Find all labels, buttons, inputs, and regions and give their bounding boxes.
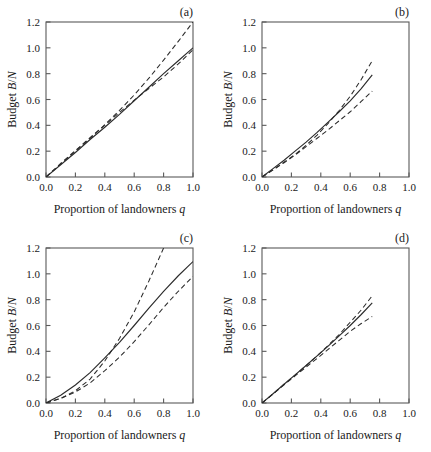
axes-frame — [262, 22, 409, 177]
y-tick-label: 1.0 — [242, 268, 256, 280]
x-axis-title: Proportion of landowners q — [54, 428, 186, 442]
x-tick-label: 0.6 — [127, 181, 141, 193]
figure-panel-grid: 0.00.20.40.60.81.00.00.20.40.60.81.01.2(… — [0, 0, 431, 452]
panel-b: 0.00.20.40.60.81.00.00.20.40.60.81.01.2(… — [216, 0, 431, 226]
curve-solid-middle — [262, 303, 372, 403]
x-tick-labels: 0.00.20.40.60.81.0 — [255, 407, 416, 419]
y-tick-label: 0.8 — [242, 68, 256, 80]
y-tick-labels: 0.00.20.40.60.81.01.2 — [26, 16, 40, 183]
x-tick-label: 0.0 — [255, 181, 269, 193]
axes-frame — [262, 248, 409, 403]
x-axis-title: Proportion of landowners q — [270, 202, 402, 216]
x-tick-label: 0.6 — [127, 407, 141, 419]
x-tick-label: 0.4 — [98, 181, 112, 193]
y-tick-label: 1.2 — [26, 242, 40, 254]
y-tick-label: 0.4 — [242, 345, 256, 357]
axis-ticks — [262, 22, 409, 177]
axes-frame — [46, 248, 193, 403]
curve-solid-middle — [262, 75, 372, 177]
y-tick-label: 0.4 — [26, 345, 40, 357]
axis-ticks — [46, 22, 193, 177]
curves — [262, 61, 372, 177]
curve-upper-dashed — [262, 296, 372, 403]
x-tick-label: 0.0 — [39, 407, 53, 419]
x-tick-labels: 0.00.20.40.60.81.0 — [255, 181, 416, 193]
curve-upper-dashed-steep — [46, 248, 164, 403]
axis-ticks — [46, 248, 193, 403]
panel-label: (a) — [180, 5, 193, 19]
y-tick-label: 0.8 — [242, 294, 256, 306]
panel-label: (d) — [395, 231, 409, 245]
x-tick-label: 1.0 — [186, 407, 200, 419]
panel-label: (b) — [395, 5, 409, 19]
axes-frame — [46, 22, 193, 177]
plot-a: 0.00.20.40.60.81.00.00.20.40.60.81.01.2(… — [0, 0, 215, 226]
y-tick-label: 0.0 — [26, 397, 40, 409]
y-tick-labels: 0.00.20.40.60.81.01.2 — [242, 242, 256, 409]
y-tick-label: 0.2 — [242, 145, 256, 157]
y-tick-label: 1.0 — [242, 42, 256, 54]
y-axis-title: Budget B/N — [221, 296, 235, 353]
y-tick-label: 1.0 — [26, 268, 40, 280]
y-tick-label: 0.8 — [26, 68, 40, 80]
x-tick-label: 0.2 — [69, 181, 83, 193]
x-tick-label: 0.8 — [157, 407, 171, 419]
plot-b: 0.00.20.40.60.81.00.00.20.40.60.81.01.2(… — [216, 0, 431, 226]
y-tick-label: 0.6 — [26, 94, 40, 106]
x-tick-label: 0.8 — [373, 407, 387, 419]
x-tick-label: 0.6 — [343, 181, 357, 193]
curves — [262, 296, 372, 403]
y-tick-label: 1.2 — [242, 16, 256, 28]
y-tick-label: 0.6 — [242, 320, 256, 332]
y-tick-label: 1.2 — [242, 242, 256, 254]
panel-label: (c) — [180, 231, 193, 245]
axis-ticks — [262, 248, 409, 403]
y-axis-title: Budget B/N — [221, 70, 235, 127]
x-tick-label: 0.0 — [255, 407, 269, 419]
plot-c: 0.00.20.40.60.81.00.00.20.40.60.81.01.2(… — [0, 226, 215, 452]
y-tick-label: 0.0 — [26, 171, 40, 183]
x-tick-label: 1.0 — [186, 181, 200, 193]
y-tick-labels: 0.00.20.40.60.81.01.2 — [26, 242, 40, 409]
x-tick-label: 0.4 — [314, 407, 328, 419]
plot-d: 0.00.20.40.60.81.00.00.20.40.60.81.01.2(… — [216, 226, 431, 452]
panel-a: 0.00.20.40.60.81.00.00.20.40.60.81.01.2(… — [0, 0, 215, 226]
curve-lower-dashed — [46, 276, 193, 403]
x-tick-label: 1.0 — [402, 407, 416, 419]
y-axis-title: Budget B/N — [5, 70, 19, 127]
panel-d: 0.00.20.40.60.81.00.00.20.40.60.81.01.2(… — [216, 226, 431, 452]
y-tick-label: 0.2 — [26, 145, 40, 157]
x-tick-labels: 0.00.20.40.60.81.0 — [39, 407, 200, 419]
x-tick-label: 0.0 — [39, 181, 53, 193]
y-tick-label: 1.2 — [26, 16, 40, 28]
y-tick-label: 0.6 — [26, 320, 40, 332]
curve-upper-dashed — [262, 61, 372, 177]
y-axis-title: Budget B/N — [5, 296, 19, 353]
x-tick-label: 0.8 — [157, 181, 171, 193]
curves — [46, 22, 193, 177]
x-tick-label: 0.4 — [314, 181, 328, 193]
x-axis-title: Proportion of landowners q — [270, 428, 402, 442]
panel-c: 0.00.20.40.60.81.00.00.20.40.60.81.01.2(… — [0, 226, 215, 452]
y-tick-label: 0.6 — [242, 94, 256, 106]
curve-lower-dashed — [262, 316, 372, 403]
curve-upper-dashed — [46, 22, 193, 177]
y-tick-label: 0.8 — [26, 294, 40, 306]
x-axis-title: Proportion of landowners q — [54, 202, 186, 216]
x-tick-label: 0.2 — [285, 181, 299, 193]
x-tick-label: 0.2 — [69, 407, 83, 419]
y-tick-label: 0.2 — [26, 371, 40, 383]
y-tick-label: 0.0 — [242, 397, 256, 409]
x-tick-label: 0.4 — [98, 407, 112, 419]
y-tick-label: 0.2 — [242, 371, 256, 383]
curves — [46, 248, 193, 403]
y-tick-label: 0.4 — [26, 119, 40, 131]
x-tick-labels: 0.00.20.40.60.81.0 — [39, 181, 200, 193]
y-tick-labels: 0.00.20.40.60.81.01.2 — [242, 16, 256, 183]
x-tick-label: 1.0 — [402, 181, 416, 193]
y-tick-label: 1.0 — [26, 42, 40, 54]
x-tick-label: 0.6 — [343, 407, 357, 419]
y-tick-label: 0.0 — [242, 171, 256, 183]
x-tick-label: 0.8 — [373, 181, 387, 193]
curve-solid-middle — [46, 262, 193, 403]
